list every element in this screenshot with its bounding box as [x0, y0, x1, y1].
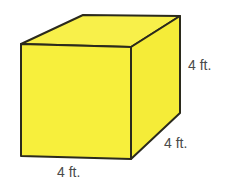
cube-front-face [21, 44, 131, 159]
cube-diagram: 4 ft. 4 ft. 4 ft. [0, 0, 233, 182]
depth-label: 4 ft. [164, 135, 187, 151]
height-label: 4 ft. [188, 57, 211, 73]
width-label: 4 ft. [57, 164, 80, 180]
